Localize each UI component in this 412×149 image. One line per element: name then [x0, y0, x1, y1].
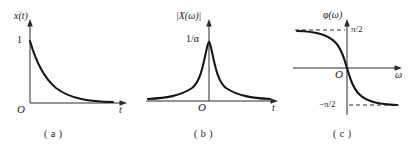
x-axis-label-c: ω	[395, 70, 402, 80]
panel-b: |X(ω)| 1/α O t ( b )	[140, 0, 285, 149]
origin-label-c: O	[335, 69, 343, 80]
x-axis-label-a: t	[119, 105, 122, 115]
y-axis-label-b: |X(ω)|	[176, 11, 201, 21]
panel-c-plot	[285, 0, 412, 149]
y-tick-label-a: 1	[17, 35, 22, 45]
origin-label-a: O	[17, 104, 25, 115]
panel-a-plot	[0, 0, 140, 149]
origin-label-b: O	[198, 102, 206, 113]
caption-b: ( b )	[194, 129, 213, 139]
x-axis-label-b: t	[272, 103, 275, 113]
y-axis-label-a: x(t)	[14, 11, 28, 21]
y-axis-arrow-b	[206, 19, 212, 27]
y-axis-label-c: φ(ω)	[323, 10, 342, 20]
y-tick-label-bottom-c: −π/2	[319, 100, 336, 109]
panel-b-plot	[140, 0, 285, 149]
y-axis-arrow-a	[27, 19, 33, 27]
y-tick-label-b: 1/α	[186, 34, 199, 44]
y-axis-arrow-c	[344, 19, 350, 27]
panel-c: φ(ω) π/2 −π/2 O ω ( c )	[285, 0, 412, 149]
exponential-decay-curve	[30, 41, 113, 102]
caption-c: ( c )	[333, 129, 352, 139]
figure-root: x(t) 1 O t ( a ) |X(ω)| 1/α O t ( b )	[0, 0, 412, 149]
panel-a: x(t) 1 O t ( a )	[0, 0, 140, 149]
y-tick-label-top-c: π/2	[351, 25, 363, 34]
caption-a: ( a )	[44, 129, 63, 139]
